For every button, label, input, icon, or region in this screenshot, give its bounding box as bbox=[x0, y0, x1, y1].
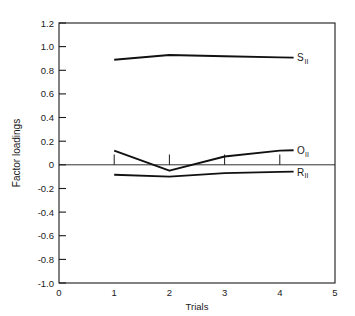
series-label-s: S II bbox=[297, 52, 308, 65]
y-tick-labels: 1.2 1.0 0.8 0.6 0.4 0.2 0 -0.2 -0.4 -0.6… bbox=[38, 18, 54, 289]
series-label-s-text: S bbox=[297, 52, 304, 63]
series-label-r-text: R bbox=[297, 167, 304, 178]
y-tick-label: 0.6 bbox=[41, 88, 54, 99]
chart-figure: 1.2 1.0 0.8 0.6 0.4 0.2 0 -0.2 -0.4 -0.6… bbox=[0, 0, 355, 316]
series-label-r-subscript: II bbox=[305, 172, 309, 179]
y-tick-marks bbox=[59, 23, 66, 283]
series-line-s bbox=[114, 55, 293, 60]
x-tick-label: 4 bbox=[277, 287, 282, 298]
series-line-r bbox=[114, 172, 293, 177]
y-tick-label: 1.0 bbox=[41, 41, 54, 52]
factor-loadings-line-chart: 1.2 1.0 0.8 0.6 0.4 0.2 0 -0.2 -0.4 -0.6… bbox=[0, 0, 355, 316]
series-line-o bbox=[114, 150, 293, 171]
y-tick-label: -0.8 bbox=[38, 254, 54, 265]
y-tick-label: 1.2 bbox=[41, 18, 54, 29]
x-tick-label: 1 bbox=[112, 287, 117, 298]
y-tick-label: 0.8 bbox=[41, 65, 54, 76]
y-tick-label: 0.4 bbox=[41, 112, 54, 123]
x-tick-label: 2 bbox=[167, 287, 172, 298]
x-tick-label: 5 bbox=[332, 287, 337, 298]
x-axis-title: Trials bbox=[186, 301, 209, 312]
series-label-o-subscript: II bbox=[305, 151, 309, 158]
y-axis-title: Factor loadings bbox=[11, 119, 22, 187]
y-tick-label: -0.4 bbox=[38, 207, 54, 218]
series-label-o: O II bbox=[297, 145, 309, 158]
x-tick-label: 3 bbox=[222, 287, 227, 298]
series-label-r: R II bbox=[297, 167, 308, 180]
y-tick-label: 0 bbox=[49, 159, 54, 170]
series-label-o-text: O bbox=[297, 145, 305, 156]
y-tick-label: 0.2 bbox=[41, 136, 54, 147]
series-label-s-subscript: II bbox=[305, 58, 309, 65]
y-tick-label: -0.2 bbox=[38, 183, 54, 194]
y-tick-label: -1.0 bbox=[38, 278, 54, 289]
x-tick-labels: 0 1 2 3 4 5 bbox=[56, 287, 337, 298]
y-tick-label: -0.6 bbox=[38, 230, 54, 241]
plot-frame bbox=[59, 23, 335, 283]
x-tick-label: 0 bbox=[56, 287, 61, 298]
